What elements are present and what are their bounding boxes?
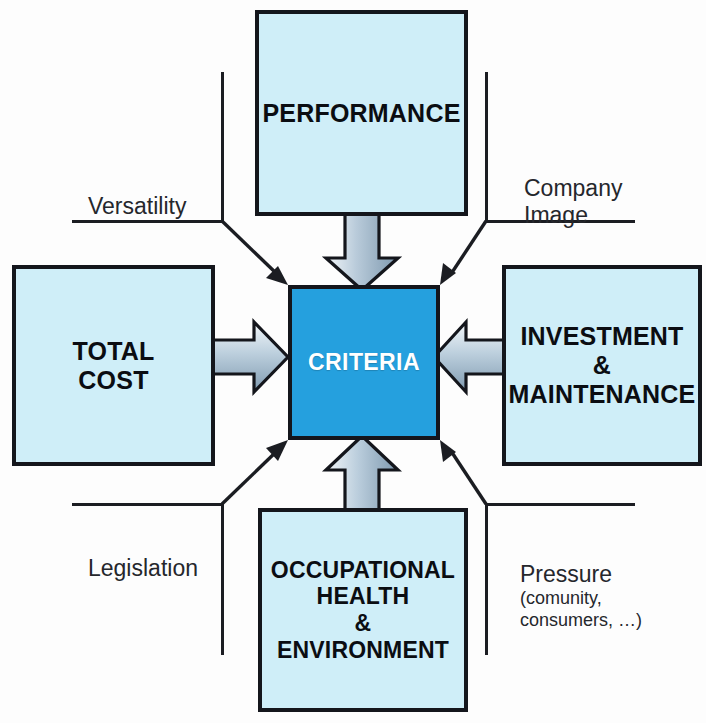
label-legislation-text: Legislation bbox=[88, 555, 198, 581]
label-company-image: Company Image bbox=[524, 148, 622, 229]
box-performance[interactable]: PERFORMANCE bbox=[255, 10, 468, 216]
arrow-versatility-to-criteria bbox=[222, 221, 288, 285]
label-pressure: Pressure (comunity, consumers, …) bbox=[520, 534, 642, 659]
arrow-occupational-to-criteria bbox=[326, 436, 398, 512]
box-total-cost[interactable]: TOTAL COST bbox=[12, 265, 215, 466]
diagram-canvas: PERFORMANCE TOTAL COST INVESTMENT & MAIN… bbox=[0, 0, 706, 723]
box-performance-label: PERFORMANCE bbox=[262, 99, 460, 128]
box-criteria[interactable]: CRITERIA bbox=[288, 285, 440, 440]
label-company-image-text: Company Image bbox=[524, 175, 622, 228]
arrow-total-cost-to-criteria bbox=[212, 322, 288, 392]
box-criteria-label: CRITERIA bbox=[308, 349, 420, 376]
box-occupational-health-environment-label: OCCUPATIONAL HEALTH & ENVIRONMENT bbox=[271, 557, 455, 664]
corner-rule-top-left-horizontal bbox=[72, 220, 223, 223]
label-pressure-text: Pressure bbox=[520, 561, 612, 587]
arrow-legislation-to-criteria bbox=[222, 440, 288, 504]
corner-rule-bottom-right-horizontal bbox=[485, 503, 635, 506]
arrow-pressure-to-criteria bbox=[440, 440, 486, 504]
corner-rule-top-left-vertical bbox=[221, 72, 224, 223]
label-pressure-subtext: (comunity, consumers, …) bbox=[520, 588, 642, 631]
label-versatility-text: Versatility bbox=[88, 193, 186, 219]
label-versatility: Versatility bbox=[88, 166, 186, 220]
corner-rule-bottom-right-vertical bbox=[485, 503, 488, 655]
box-occupational-health-environment[interactable]: OCCUPATIONAL HEALTH & ENVIRONMENT bbox=[258, 508, 468, 712]
box-investment-maintenance[interactable]: INVESTMENT & MAINTENANCE bbox=[502, 265, 702, 466]
box-investment-maintenance-label: INVESTMENT & MAINTENANCE bbox=[509, 322, 696, 409]
label-legislation: Legislation bbox=[88, 528, 198, 582]
corner-rule-bottom-left-vertical bbox=[221, 503, 224, 655]
arrow-performance-to-criteria bbox=[326, 212, 398, 290]
arrow-company-image-to-criteria bbox=[440, 221, 486, 285]
corner-rule-bottom-left-horizontal bbox=[72, 503, 223, 506]
arrow-investment-to-criteria bbox=[434, 322, 505, 392]
corner-rule-top-right-vertical bbox=[485, 72, 488, 223]
box-total-cost-label: TOTAL COST bbox=[72, 337, 154, 395]
